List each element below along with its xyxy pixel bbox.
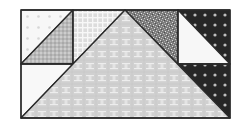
quilt-pieces <box>21 10 230 118</box>
quilt-block-diagram <box>0 0 237 127</box>
